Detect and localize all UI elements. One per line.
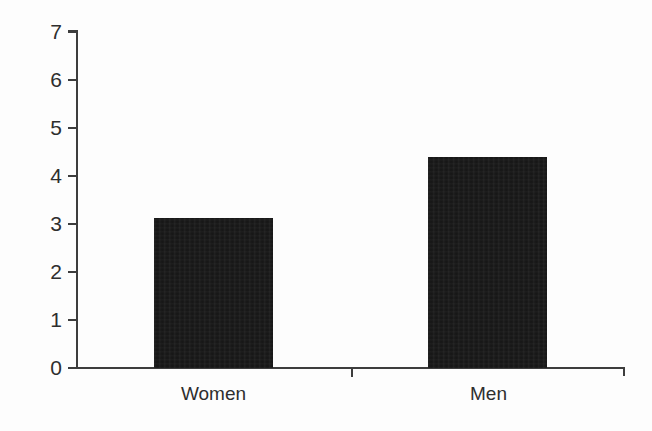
y-axis-tick-label-wrap: 1 (12, 309, 62, 330)
y-axis-tick-label: 6 (34, 69, 62, 90)
y-axis-tick-label: 2 (34, 261, 62, 282)
y-axis-tick-label: 0 (34, 357, 62, 378)
y-axis-tick-label: 1 (34, 309, 62, 330)
y-axis-tick-label: 4 (34, 165, 62, 186)
y-axis-tick (68, 223, 77, 225)
y-axis-tick-label-wrap: 7 (12, 21, 62, 42)
x-axis-label-men: Men (351, 383, 626, 405)
x-axis-label-women: Women (76, 383, 351, 405)
y-axis-tick-label-wrap: 4 (12, 165, 62, 186)
y-axis-tick-label: 7 (34, 21, 62, 42)
bar-women (154, 218, 273, 368)
y-axis-tick (68, 319, 77, 321)
bar-men (428, 157, 547, 368)
y-axis-tick (68, 79, 77, 81)
x-axis-right-cap (623, 367, 625, 376)
y-axis-tick-label: 5 (34, 117, 62, 138)
y-axis-tick (68, 31, 77, 33)
y-axis-tick-label: 3 (34, 213, 62, 234)
y-axis-tick-label-wrap: 5 (12, 117, 62, 138)
y-axis-tick (68, 175, 77, 177)
y-axis-tick (68, 127, 77, 129)
bar-chart-figure: 01234567 WomenMen (0, 0, 652, 431)
y-axis-tick (68, 271, 77, 273)
y-axis-tick-label-wrap: 2 (12, 261, 62, 282)
y-axis-tick-label-wrap: 3 (12, 213, 62, 234)
x-axis-tick (351, 368, 353, 377)
y-axis-tick (68, 367, 77, 369)
y-axis-tick-label-wrap: 0 (12, 357, 62, 378)
y-axis-tick-label-wrap: 6 (12, 69, 62, 90)
